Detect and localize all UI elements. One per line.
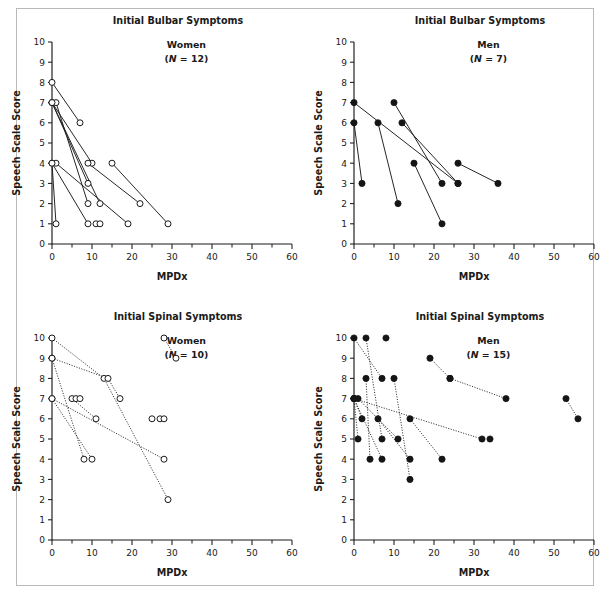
group-label: Women <box>167 335 206 346</box>
subject-link <box>366 338 382 439</box>
x-tick-label: 0 <box>351 252 357 262</box>
y-tick-label: 4 <box>341 455 347 465</box>
x-tick-label: 10 <box>388 252 400 262</box>
data-point <box>49 355 55 361</box>
y-tick-label: 7 <box>39 98 45 108</box>
x-tick-label: 60 <box>286 548 298 558</box>
data-point <box>81 456 87 462</box>
panel-title: Initial Bulbar Symptoms <box>113 15 244 26</box>
subject-link <box>56 103 88 204</box>
y-tick-label: 9 <box>341 354 347 364</box>
y-tick-label: 4 <box>341 159 347 169</box>
y-tick-label: 8 <box>39 78 45 88</box>
x-tick-label: 0 <box>49 548 55 558</box>
subject-link <box>430 358 450 378</box>
data-points <box>351 100 501 227</box>
data-point <box>363 335 369 341</box>
data-point <box>455 180 461 186</box>
y-tick-label: 5 <box>341 138 347 148</box>
y-tick-label: 3 <box>39 475 45 485</box>
y-tick-label: 0 <box>39 535 45 545</box>
x-tick-label: 0 <box>351 548 357 558</box>
y-tick-label: 3 <box>341 179 347 189</box>
data-point <box>407 476 413 482</box>
axes <box>52 338 292 540</box>
data-point <box>85 201 91 207</box>
data-point <box>375 416 381 422</box>
y-tick-label: 6 <box>341 414 347 424</box>
data-point <box>407 456 413 462</box>
data-point <box>395 201 401 207</box>
data-point <box>399 120 405 126</box>
y-tick-label: 4 <box>39 159 45 169</box>
data-point <box>563 396 569 402</box>
data-point <box>367 456 373 462</box>
data-point <box>165 497 171 503</box>
panel-title: Initial Spinal Symptoms <box>114 311 243 322</box>
group-sample-size: (N = 15) <box>466 349 510 360</box>
data-point <box>351 100 357 106</box>
x-tick-label: 30 <box>166 252 178 262</box>
x-tick-label: 20 <box>126 548 138 558</box>
group-label: Men <box>477 335 499 346</box>
subject-link <box>88 163 140 203</box>
panel-bulbar-men: Initial Bulbar SymptomsMen(N = 7)0123456… <box>306 6 606 302</box>
data-point <box>93 416 99 422</box>
y-tick-label: 9 <box>341 58 347 68</box>
data-point <box>173 355 179 361</box>
subject-link <box>450 378 506 398</box>
data-point <box>487 436 493 442</box>
subject-links <box>52 82 168 223</box>
data-point <box>49 160 55 166</box>
x-axis-ticks: 0102030405060 <box>49 244 298 262</box>
x-axis-ticks: 0102030405060 <box>49 540 298 558</box>
figure-root: Initial Bulbar SymptomsWomen(N = 12)0123… <box>0 0 610 600</box>
panel-spinal-men: Initial Spinal SymptomsMen(N = 15)012345… <box>306 302 606 598</box>
x-axis-ticks: 0102030405060 <box>351 540 600 558</box>
subject-link <box>402 123 458 184</box>
group-label: Men <box>477 39 499 50</box>
data-point <box>85 221 91 227</box>
y-tick-label: 1 <box>341 515 347 525</box>
data-point <box>89 456 95 462</box>
data-point <box>351 120 357 126</box>
x-tick-label: 20 <box>428 548 440 558</box>
subject-link <box>354 123 362 184</box>
y-tick-label: 10 <box>34 333 46 343</box>
chart-spinal_men: Initial Spinal SymptomsMen(N = 15)012345… <box>306 302 606 598</box>
y-tick-label: 7 <box>341 394 347 404</box>
panel-title: Initial Spinal Symptoms <box>416 311 545 322</box>
subject-link <box>52 399 164 460</box>
x-tick-label: 30 <box>468 252 480 262</box>
data-point <box>161 335 167 341</box>
data-point <box>49 100 55 106</box>
data-point <box>49 396 55 402</box>
y-tick-label: 6 <box>39 414 45 424</box>
data-point <box>125 221 131 227</box>
data-point <box>379 456 385 462</box>
data-point <box>49 335 55 341</box>
data-point <box>359 180 365 186</box>
y-tick-label: 1 <box>341 219 347 229</box>
group-sample-size: (N = 12) <box>164 53 208 64</box>
y-tick-label: 2 <box>39 199 45 209</box>
x-tick-label: 50 <box>246 548 258 558</box>
data-point <box>363 375 369 381</box>
y-tick-label: 10 <box>336 333 348 343</box>
subject-link <box>458 163 498 183</box>
x-tick-label: 40 <box>508 548 520 558</box>
x-tick-label: 10 <box>86 548 98 558</box>
x-tick-label: 40 <box>206 252 218 262</box>
subject-link <box>354 103 458 184</box>
y-tick-label: 0 <box>39 239 45 249</box>
data-point <box>439 456 445 462</box>
y-tick-label: 5 <box>341 434 347 444</box>
subject-link <box>354 399 358 439</box>
y-axis-ticks: 012345678910 <box>34 37 52 249</box>
y-tick-label: 6 <box>341 118 347 128</box>
data-point <box>383 335 389 341</box>
data-point <box>105 375 111 381</box>
data-point <box>355 436 361 442</box>
subject-link <box>56 163 128 224</box>
y-tick-label: 8 <box>341 374 347 384</box>
